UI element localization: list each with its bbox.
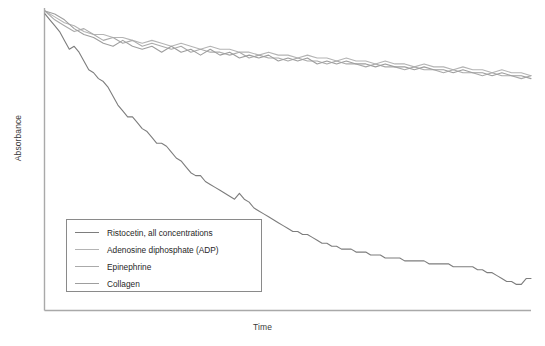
legend-swatch-collagen (75, 283, 99, 284)
legend-item-epinephrine[interactable]: Epinephrine (67, 258, 261, 275)
legend-label-adp: Adenosine diphosphate (ADP) (107, 245, 219, 255)
x-axis-title-text: Time (253, 322, 272, 332)
x-axis-title: Time (0, 322, 545, 332)
legend-swatch-adp (75, 249, 99, 250)
legend-label-collagen: Collagen (107, 279, 140, 289)
legend-swatch-ristocetin (75, 232, 99, 233)
legend-label-epinephrine: Epinephrine (107, 262, 151, 272)
legend-item-ristocetin[interactable]: Ristocetin, all concentrations (67, 224, 261, 241)
legend-item-collagen[interactable]: Collagen (67, 275, 261, 292)
legend-label-ristocetin: Ristocetin, all concentrations (107, 228, 213, 238)
aggregation-chart: Absorbance Time Ristocetin, all concentr… (0, 0, 545, 346)
chart-legend: Ristocetin, all concentrations Adenosine… (66, 219, 262, 292)
y-axis-title: Absorbance (13, 98, 23, 178)
plot-area (0, 0, 545, 346)
legend-swatch-epinephrine (75, 266, 99, 267)
legend-item-adp[interactable]: Adenosine diphosphate (ADP) (67, 241, 261, 258)
